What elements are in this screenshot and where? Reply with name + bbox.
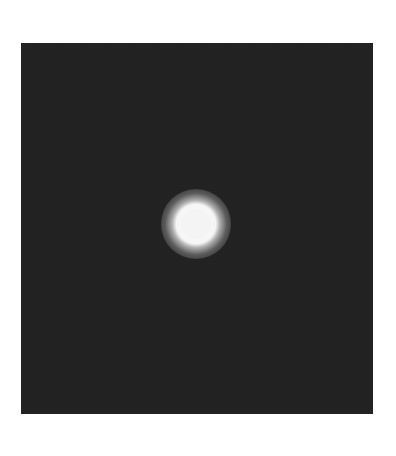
dark-field (21, 43, 373, 414)
bright-disc (181, 209, 211, 239)
